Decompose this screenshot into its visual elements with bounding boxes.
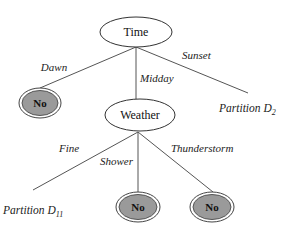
leaf-shower-label: No: [131, 201, 145, 213]
node-weather-label: Weather: [120, 108, 160, 122]
decision-tree-diagram: Time Dawn Midday Sunset No Partition D2 …: [0, 0, 286, 231]
leaf-dawn-label: No: [33, 97, 47, 109]
edge-label-sunset: Sunset: [182, 49, 212, 61]
edge-label-shower: Shower: [100, 155, 134, 167]
leaf-thunderstorm-no: No: [190, 192, 234, 222]
partition-d11-label: Partition D11: [2, 204, 63, 219]
partition-d2-label: Partition D2: [218, 102, 276, 117]
edge-label-fine: Fine: [58, 142, 79, 154]
node-weather: Weather: [105, 99, 175, 131]
leaf-shower-no: No: [116, 192, 160, 222]
leaf-dawn-no: No: [19, 88, 61, 118]
node-time: Time: [100, 17, 172, 47]
edge-label-thunderstorm: Thunderstorm: [171, 142, 233, 154]
edge-label-midday: Midday: [139, 72, 174, 84]
edge-label-dawn: Dawn: [40, 61, 68, 73]
node-time-label: Time: [124, 25, 149, 39]
edge-thunderstorm: [138, 132, 213, 192]
leaf-thunderstorm-label: No: [205, 201, 219, 213]
